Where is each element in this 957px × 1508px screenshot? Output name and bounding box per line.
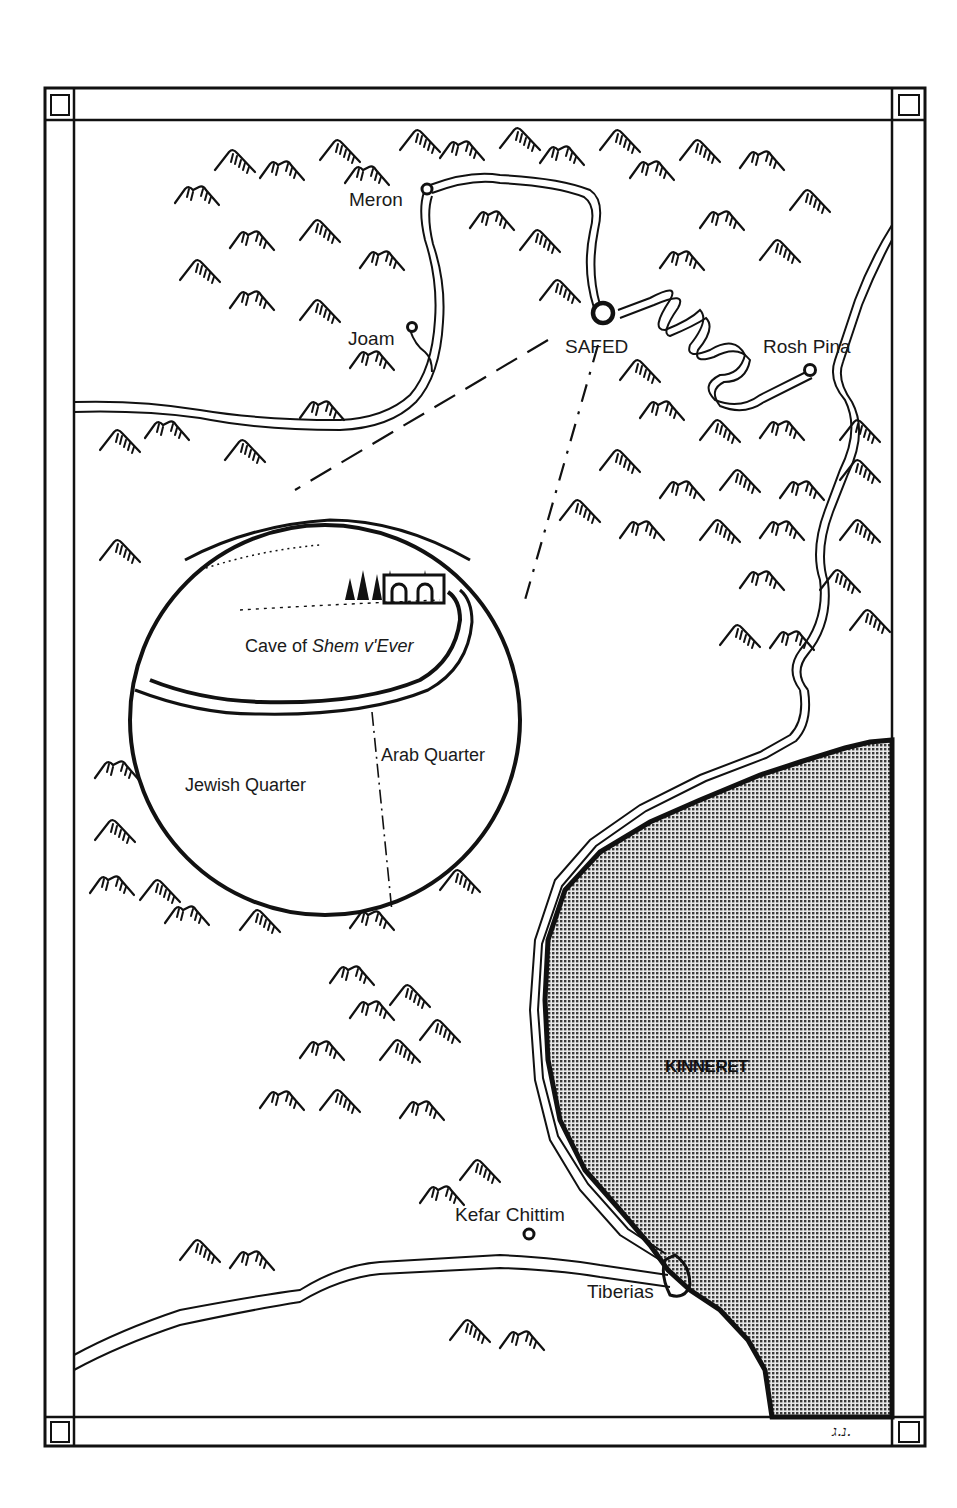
label-cave-prefix: Cave of [245,636,312,656]
label-cave-name: Shem v'Ever [312,636,413,656]
label-kefar-chittim: Kefar Chittim [455,1205,565,1224]
label-meron: Meron [349,190,403,209]
label-kinneret: KINNERET [665,1058,748,1075]
rosh-pina-marker [805,365,816,376]
meron-marker [422,184,432,194]
safed-marker [593,303,613,323]
kefar-chittim-marker [524,1229,534,1239]
label-arab-quarter: Arab Quarter [381,746,485,764]
road-meron-safed [430,174,600,308]
label-joam: Joam [348,329,394,348]
safed-inset [130,520,520,915]
road-west-tiberias [74,1255,690,1370]
label-jewish-quarter: Jewish Quarter [185,776,306,794]
cave-icon [384,575,444,603]
river-north [793,225,893,690]
road-meron-west [74,192,444,430]
artist-signature: נ.ג. [832,1424,851,1439]
label-cave: Cave of Shem v'Ever [245,637,414,655]
lake-kinneret [545,740,892,1417]
label-safed: SAFED [565,337,628,356]
joam-marker [408,323,417,332]
label-tiberias: Tiberias [587,1282,654,1301]
label-rosh-pina: Rosh Pina [763,337,851,356]
